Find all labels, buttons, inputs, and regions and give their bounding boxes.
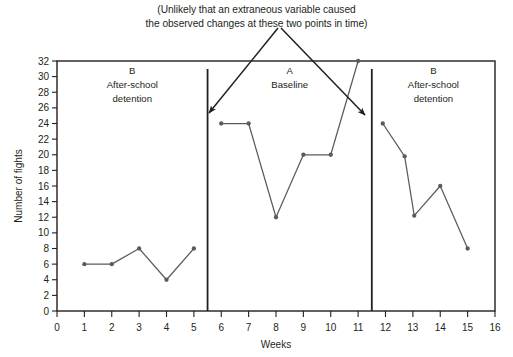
phase-b1-point <box>164 278 168 282</box>
chart-figure: (Unlikely that an extraneous variable ca… <box>0 0 513 357</box>
y-tick-label: 30 <box>38 71 50 82</box>
y-axis: 02468101214161820222426283032 <box>38 56 57 317</box>
phase-b1-point <box>137 246 141 250</box>
y-tick-label: 0 <box>43 306 49 317</box>
x-tick-label: 14 <box>435 322 447 333</box>
phase-b2-point <box>465 246 469 250</box>
chart-canvas: 02468101214161820222426283032 0123456789… <box>0 0 513 357</box>
x-tick-label: 6 <box>218 322 224 333</box>
phase-a-point <box>329 153 333 157</box>
phase-a-point <box>246 121 250 125</box>
phase-b1-letter: B <box>129 65 135 76</box>
x-tick-label: 10 <box>325 322 337 333</box>
y-tick-label: 22 <box>38 134 50 145</box>
y-tick-label: 32 <box>38 56 50 67</box>
phase-b2-point <box>438 184 442 188</box>
x-tick-label: 11 <box>353 322 364 333</box>
phase-b2-name-2: detention <box>414 93 453 104</box>
y-axis-label: Number of fights <box>13 149 24 222</box>
x-axis-label: Weeks <box>261 339 291 350</box>
y-tick-label: 28 <box>38 87 50 98</box>
y-tick-label: 18 <box>38 165 50 176</box>
phase-b1-point <box>82 262 86 266</box>
y-tick-label: 14 <box>38 196 50 207</box>
phase-a-point <box>219 121 223 125</box>
x-tick-label: 4 <box>164 322 170 333</box>
phase-a-point <box>356 59 360 63</box>
y-tick-label: 6 <box>43 259 49 270</box>
y-tick-label: 2 <box>43 290 49 301</box>
phase-a-name-1: Baseline <box>271 79 308 90</box>
phase-b2-name-1: After-school <box>408 79 459 90</box>
x-tick-label: 16 <box>489 322 501 333</box>
x-tick-label: 9 <box>301 322 307 333</box>
y-tick-label: 24 <box>38 118 50 129</box>
phase-a-letter: A <box>286 65 293 76</box>
phase-b1-name-1: After-school <box>107 79 158 90</box>
x-tick-label: 2 <box>109 322 115 333</box>
x-tick-label: 5 <box>191 322 197 333</box>
phase-b2-point <box>403 154 407 158</box>
y-tick-label: 20 <box>38 149 50 160</box>
y-tick-label: 16 <box>38 181 50 192</box>
x-tick-label: 3 <box>136 322 142 333</box>
x-tick-label: 0 <box>54 322 60 333</box>
phase-b2-point <box>412 214 416 218</box>
y-tick-label: 10 <box>38 227 50 238</box>
x-axis: 012345678910111213141516 <box>54 311 501 333</box>
phase-b1-name-2: detention <box>113 93 152 104</box>
y-tick-label: 8 <box>43 243 49 254</box>
x-tick-label: 8 <box>273 322 279 333</box>
phase-b2-point <box>381 121 385 125</box>
x-tick-label: 12 <box>380 322 392 333</box>
y-tick-label: 26 <box>38 102 50 113</box>
y-tick-label: 4 <box>43 274 49 285</box>
phase-a-point <box>301 153 305 157</box>
y-tick-label: 12 <box>38 212 50 223</box>
phase-b2-letter: B <box>430 65 436 76</box>
phase-b1-point <box>110 262 114 266</box>
x-tick-label: 13 <box>407 322 419 333</box>
phase-b1-point <box>192 246 196 250</box>
x-tick-label: 7 <box>246 322 252 333</box>
x-tick-label: 15 <box>462 322 474 333</box>
x-tick-label: 1 <box>82 322 88 333</box>
phase-a-point <box>274 215 278 219</box>
